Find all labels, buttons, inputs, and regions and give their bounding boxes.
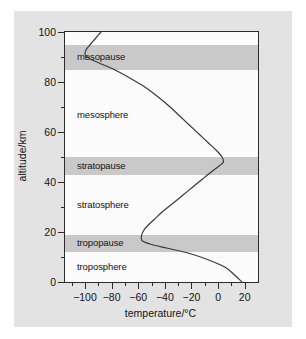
x-tick-label--20: −20 (183, 291, 201, 303)
x-tick-20 (245, 282, 246, 289)
x-tick-label-20: 20 (239, 291, 251, 303)
figure-panel: tropopausestratopausemesopausetropospher… (14, 11, 292, 327)
y-minor-tick-10 (61, 257, 65, 258)
x-minor-tick--50 (152, 282, 153, 286)
y-tick-60 (58, 132, 65, 133)
x-tick-label--60: −60 (129, 291, 147, 303)
x-tick-0 (218, 282, 219, 289)
y-tick-100 (58, 32, 65, 33)
x-tick--60 (138, 282, 139, 289)
x-tick-label--80: −80 (103, 291, 121, 303)
y-tick-label-0: 0 (50, 276, 56, 288)
y-tick-0 (58, 282, 65, 283)
x-axis-title: temperature/°C (64, 307, 257, 319)
x-tick--20 (191, 282, 192, 289)
x-tick--100 (85, 282, 86, 289)
temperature-profile-path (85, 32, 242, 282)
y-tick-label-60: 60 (44, 126, 56, 138)
x-minor-tick--30 (178, 282, 179, 286)
x-minor-tick--90 (98, 282, 99, 286)
x-minor-tick--110 (72, 282, 73, 286)
y-tick-label-40: 40 (44, 176, 56, 188)
x-tick-label--100: −100 (73, 291, 97, 303)
y-minor-tick-70 (61, 107, 65, 108)
y-minor-tick-30 (61, 207, 65, 208)
y-tick-20 (58, 232, 65, 233)
y-minor-tick-90 (61, 57, 65, 58)
y-minor-tick-50 (61, 157, 65, 158)
y-tick-label-20: 20 (44, 226, 56, 238)
y-tick-label-80: 80 (44, 76, 56, 88)
y-tick-40 (58, 182, 65, 183)
y-tick-80 (58, 82, 65, 83)
temperature-profile-curve (65, 32, 258, 282)
x-tick--80 (112, 282, 113, 289)
x-tick-label--40: −40 (156, 291, 174, 303)
y-axis-title: altitude/km (16, 131, 28, 182)
x-tick--40 (165, 282, 166, 289)
y-tick-label-100: 100 (38, 26, 56, 38)
x-minor-tick-10 (231, 282, 232, 286)
x-tick-label-0: 0 (215, 291, 221, 303)
x-minor-tick--10 (205, 282, 206, 286)
plot-area: tropopausestratopausemesopausetropospher… (64, 31, 259, 283)
x-minor-tick--70 (125, 282, 126, 286)
